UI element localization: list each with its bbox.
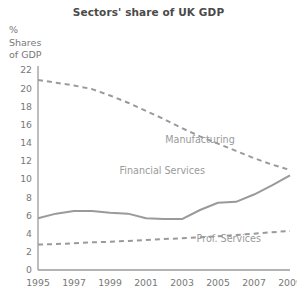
y-tick-label: 12 — [20, 155, 32, 166]
x-tick-label: 2005 — [206, 277, 230, 288]
y-tick-label: 2 — [26, 246, 32, 257]
y-tick-label: 6 — [26, 210, 32, 221]
y-tick-label: 8 — [26, 192, 32, 203]
plot-area: 0246810121416182022 19951997199920012003… — [0, 0, 297, 296]
x-tick-label: 2009 — [278, 277, 297, 288]
x-tick-label: 2001 — [134, 277, 158, 288]
series-line — [38, 80, 290, 170]
x-tick-label: 1995 — [26, 277, 50, 288]
y-tick-label: 0 — [26, 264, 32, 275]
y-tick-label: 18 — [20, 101, 32, 112]
y-axis-tick-labels: 0246810121416182022 — [20, 64, 32, 275]
data-series-group — [38, 80, 290, 245]
y-tick-label: 20 — [20, 83, 32, 94]
x-tick-label: 1997 — [62, 277, 86, 288]
series-label: Prof. Services — [197, 233, 261, 244]
x-tick-label: 1999 — [98, 277, 122, 288]
chart-container: Sectors' share of UK GDP % Shares of GDP… — [0, 0, 297, 296]
y-tick-label: 4 — [26, 228, 32, 239]
series-label: Financial Services — [119, 165, 205, 176]
x-tick-label: 2007 — [242, 277, 266, 288]
y-tick-label: 22 — [20, 64, 32, 75]
series-annotation-group: ManufacturingFinancial ServicesProf. Ser… — [119, 134, 261, 244]
x-axis-tick-labels: 19951997199920012003200520072009 — [26, 277, 297, 288]
series-line — [38, 175, 290, 219]
x-tick-label: 2003 — [170, 277, 194, 288]
y-tick-label: 16 — [20, 119, 32, 130]
series-label: Manufacturing — [165, 134, 234, 145]
y-tick-label: 14 — [20, 137, 32, 148]
y-tick-label: 10 — [20, 173, 32, 184]
